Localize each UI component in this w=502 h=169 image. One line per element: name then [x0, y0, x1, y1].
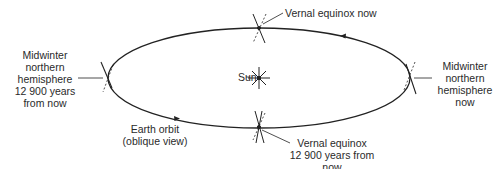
- sun-label: Sun: [238, 71, 257, 83]
- orbit-arrow-top-icon: [340, 34, 346, 39]
- midwinter-now-line: Midwinter: [430, 60, 500, 72]
- orbit-label-line1: Earth orbit: [100, 123, 210, 135]
- vernal-future-line1: Vernal equinox: [282, 137, 382, 149]
- midwinter-now-line: hemisphere: [430, 84, 500, 96]
- orbit-label-line2: (oblique view): [100, 135, 210, 147]
- midwinter-future-line: 12 900 years: [10, 85, 80, 97]
- midwinter-future-line: hemisphere: [10, 73, 80, 85]
- vernal-equinox-future-label: Vernal equinox 12 900 years from now: [282, 137, 382, 169]
- midwinter-now-line: northern: [430, 72, 500, 84]
- earth-orbit-label: Earth orbit (oblique view): [100, 123, 210, 147]
- midwinter-now-line: now: [430, 96, 500, 108]
- vernal-future-line2: 12 900 years from now: [282, 149, 382, 169]
- midwinter-now-marker-icon: [404, 62, 432, 94]
- midwinter-future-line: from now: [10, 97, 80, 109]
- midwinter-future-line: northern: [10, 61, 80, 73]
- midwinter-future-line: Midwinter: [10, 49, 80, 61]
- midwinter-future-label: Midwinter northern hemisphere 12 900 yea…: [10, 49, 80, 109]
- midwinter-now-label: Midwinter northern hemisphere now: [430, 60, 500, 108]
- vernal-equinox-now-label: Vernal equinox now: [285, 7, 377, 19]
- midwinter-future-marker-icon: [78, 62, 113, 92]
